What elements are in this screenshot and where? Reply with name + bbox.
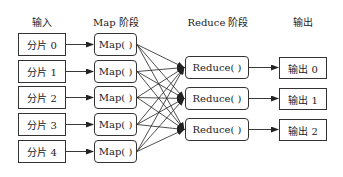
output-1: 输出 1 <box>279 88 327 110</box>
input-split-1: 分片 1 <box>18 60 66 83</box>
input-split-2: 分片 2 <box>18 86 66 109</box>
reduce-task-0: Reduce( ) <box>185 56 249 79</box>
reduce-task-2: Reduce( ) <box>185 118 249 141</box>
map-task-4: Map( ) <box>94 140 137 163</box>
output-2: 输出 2 <box>279 119 327 141</box>
input-split-3: 分片 3 <box>18 113 66 136</box>
map-task-2: Map( ) <box>94 86 137 109</box>
map-task-3: Map( ) <box>94 113 137 136</box>
input-split-4: 分片 4 <box>18 140 66 163</box>
reduce-task-1: Reduce( ) <box>185 87 249 110</box>
map-task-0: Map( ) <box>94 33 137 56</box>
input-split-0: 分片 0 <box>18 33 66 56</box>
map-task-1: Map( ) <box>94 60 137 83</box>
output-0: 输出 0 <box>279 57 327 79</box>
